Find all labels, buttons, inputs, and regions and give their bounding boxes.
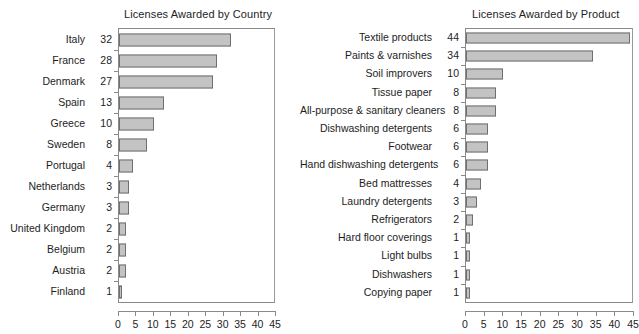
category-value: 6 bbox=[439, 140, 459, 152]
category-row: Belgium2 bbox=[0, 238, 112, 259]
bar-row bbox=[119, 155, 274, 176]
y-tick bbox=[461, 247, 466, 248]
x-axis-line-product bbox=[465, 311, 633, 312]
x-tick-label: 30 bbox=[571, 318, 583, 330]
bar bbox=[466, 196, 477, 207]
bar bbox=[466, 233, 470, 244]
y-tick bbox=[461, 84, 466, 85]
x-tick-label: 10 bbox=[496, 318, 508, 330]
category-row: Dishwashing detergents6 bbox=[300, 119, 459, 137]
category-row: Refrigerators2 bbox=[300, 210, 459, 228]
y-tick bbox=[114, 92, 119, 93]
y-tick bbox=[461, 229, 466, 230]
x-tick bbox=[502, 311, 503, 316]
category-value: 4 bbox=[439, 177, 459, 189]
category-label: All-purpose & sanitary cleaners bbox=[300, 104, 445, 116]
bar-row bbox=[466, 84, 632, 102]
x-tick-label: 30 bbox=[217, 318, 229, 330]
x-tick bbox=[240, 311, 241, 316]
category-value: 2 bbox=[92, 264, 112, 276]
bar-row bbox=[466, 265, 632, 283]
bar bbox=[119, 222, 126, 235]
category-label: Denmark bbox=[42, 75, 85, 87]
category-row: Tissue paper8 bbox=[300, 83, 459, 101]
category-value: 1 bbox=[439, 268, 459, 280]
y-tick bbox=[461, 138, 466, 139]
chart-panel-country: Licenses Awarded by Country Italy32Franc… bbox=[0, 0, 300, 334]
category-label: Italy bbox=[66, 33, 85, 45]
bar bbox=[466, 287, 470, 298]
category-label: Laundry detergents bbox=[342, 195, 432, 207]
y-tick bbox=[114, 71, 119, 72]
category-row: Light bulbs1 bbox=[300, 246, 459, 264]
category-label: Belgium bbox=[47, 243, 85, 255]
bar-row bbox=[119, 260, 274, 281]
x-tick-label: 45 bbox=[269, 318, 281, 330]
category-value: 8 bbox=[92, 138, 112, 150]
bar-row bbox=[466, 193, 632, 211]
category-label: Sweden bbox=[47, 138, 85, 150]
category-label: Soil improvers bbox=[365, 67, 432, 79]
category-row: Hand dishwashing detergents6 bbox=[300, 155, 459, 173]
x-tick-label: 15 bbox=[164, 318, 176, 330]
x-tick-label: 10 bbox=[147, 318, 159, 330]
bar-row bbox=[119, 134, 274, 155]
category-value: 3 bbox=[439, 195, 459, 207]
category-value: 34 bbox=[439, 49, 459, 61]
category-label: Bed mattresses bbox=[359, 177, 432, 189]
category-label: Hand dishwashing detergents bbox=[300, 158, 438, 170]
x-tick bbox=[153, 311, 154, 316]
x-tick bbox=[205, 311, 206, 316]
category-value: 2 bbox=[92, 222, 112, 234]
x-tick bbox=[558, 311, 559, 316]
bar-row bbox=[466, 138, 632, 156]
x-tick-label: 0 bbox=[462, 318, 468, 330]
category-label: Dishwashers bbox=[372, 268, 432, 280]
bar bbox=[466, 142, 488, 153]
category-row: Laundry detergents3 bbox=[300, 192, 459, 210]
category-value: 10 bbox=[439, 67, 459, 79]
category-label: Portugal bbox=[46, 159, 85, 171]
category-label: Refrigerators bbox=[371, 213, 432, 225]
x-axis-product: 051015202530354045 bbox=[465, 311, 633, 334]
category-label-column-country: Italy32France28Denmark27Spain13Greece10S… bbox=[0, 28, 112, 303]
y-tick bbox=[114, 176, 119, 177]
bar-row bbox=[466, 102, 632, 120]
bar bbox=[466, 178, 481, 189]
x-tick bbox=[258, 311, 259, 316]
x-tick-label: 25 bbox=[199, 318, 211, 330]
y-tick bbox=[114, 155, 119, 156]
bar-rows-product bbox=[466, 29, 632, 302]
y-tick bbox=[461, 284, 466, 285]
category-row: All-purpose & sanitary cleaners8 bbox=[300, 101, 459, 119]
bar bbox=[466, 69, 503, 80]
bar bbox=[119, 285, 122, 298]
category-row: Copying paper1 bbox=[300, 283, 459, 301]
y-tick bbox=[114, 50, 119, 51]
x-tick bbox=[614, 311, 615, 316]
category-row: Denmark27 bbox=[0, 70, 112, 91]
category-value: 13 bbox=[92, 96, 112, 108]
y-tick bbox=[114, 218, 119, 219]
category-label: Dishwashing detergents bbox=[320, 122, 432, 134]
category-value: 3 bbox=[92, 201, 112, 213]
y-tick bbox=[114, 281, 119, 282]
category-value: 6 bbox=[439, 122, 459, 134]
category-row: Netherlands3 bbox=[0, 175, 112, 196]
category-label: France bbox=[52, 54, 85, 66]
y-tick bbox=[114, 134, 119, 135]
category-row: Finland1 bbox=[0, 280, 112, 301]
category-label: Tissue paper bbox=[372, 86, 432, 98]
x-tick-label: 5 bbox=[481, 318, 487, 330]
bar bbox=[466, 124, 488, 135]
bar bbox=[119, 159, 133, 172]
category-value: 2 bbox=[92, 243, 112, 255]
bar bbox=[466, 87, 496, 98]
category-label: Netherlands bbox=[28, 180, 85, 192]
bar-row bbox=[466, 284, 632, 302]
category-label: Light bulbs bbox=[381, 249, 432, 261]
y-tick bbox=[461, 266, 466, 267]
category-value: 1 bbox=[439, 286, 459, 298]
category-row: France28 bbox=[0, 49, 112, 70]
category-label: Footwear bbox=[388, 140, 432, 152]
